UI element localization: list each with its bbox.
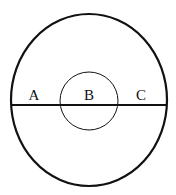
circle-diagram: A B C <box>0 0 176 195</box>
label-c: C <box>136 87 146 103</box>
label-b: B <box>84 87 94 103</box>
label-a: A <box>29 87 40 103</box>
